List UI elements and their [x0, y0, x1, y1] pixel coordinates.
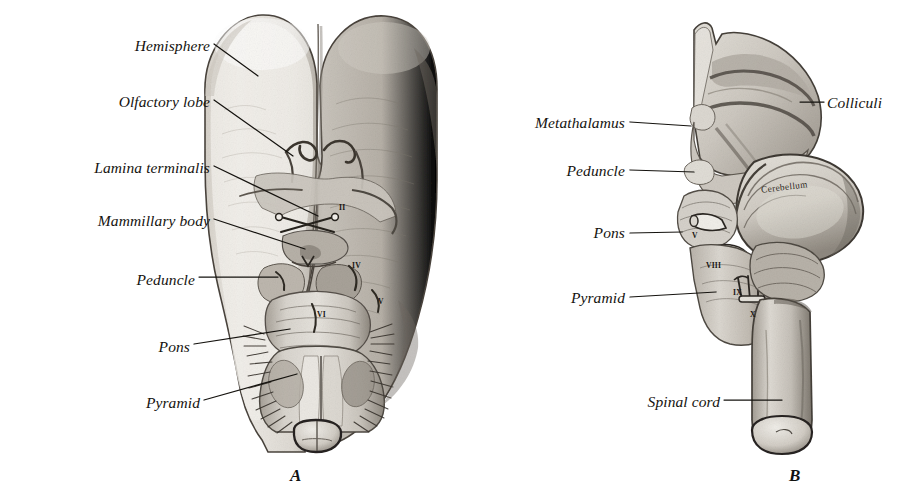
- cranial-nerve-nerve-ix-b: IX: [733, 288, 742, 297]
- label-peduncle-b: Peduncle: [567, 163, 625, 179]
- figure-letter-b: B: [789, 466, 800, 486]
- cranial-nerve-nerve-vi: VI: [317, 310, 326, 319]
- label-pyramid-b: Pyramid: [571, 290, 625, 306]
- leader-line-metathalamus: [630, 122, 691, 126]
- label-olfactory-lobe: Olfactory lobe: [119, 94, 210, 110]
- label-pons: Pons: [159, 339, 190, 355]
- label-colliculi: Colliculi: [827, 95, 882, 111]
- label-hemisphere: Hemisphere: [135, 38, 210, 54]
- cranial-nerve-nerve-v-b: V: [692, 231, 698, 240]
- cranial-nerve-nerve-v: V: [378, 297, 384, 306]
- figure-letter-a: A: [290, 466, 301, 486]
- anatomy-plate: HemisphereOlfactory lobeLamina terminali…: [0, 0, 922, 500]
- cranial-nerve-nerve-x-b: X: [750, 310, 756, 319]
- panel-b-figure: [678, 23, 864, 454]
- cranial-nerve-nerve-ii: II: [339, 203, 345, 212]
- panel-a-figure: [205, 15, 437, 452]
- label-peduncle: Peduncle: [137, 272, 195, 288]
- label-spinal-cord: Spinal cord: [648, 394, 720, 410]
- leader-line-pons-b: [630, 232, 682, 233]
- brain-illustration: [0, 0, 922, 500]
- label-lamina-terminalis: Lamina terminalis: [94, 160, 210, 176]
- cranial-nerve-nerve-iv: IV: [352, 261, 361, 270]
- label-pyramid: Pyramid: [146, 395, 200, 411]
- cranial-nerve-nerve-viii-b: VIII: [706, 261, 721, 270]
- label-pons-b: Pons: [594, 225, 625, 241]
- label-metathalamus: Metathalamus: [535, 115, 625, 131]
- label-mammillary-body: Mammillary body: [98, 213, 210, 229]
